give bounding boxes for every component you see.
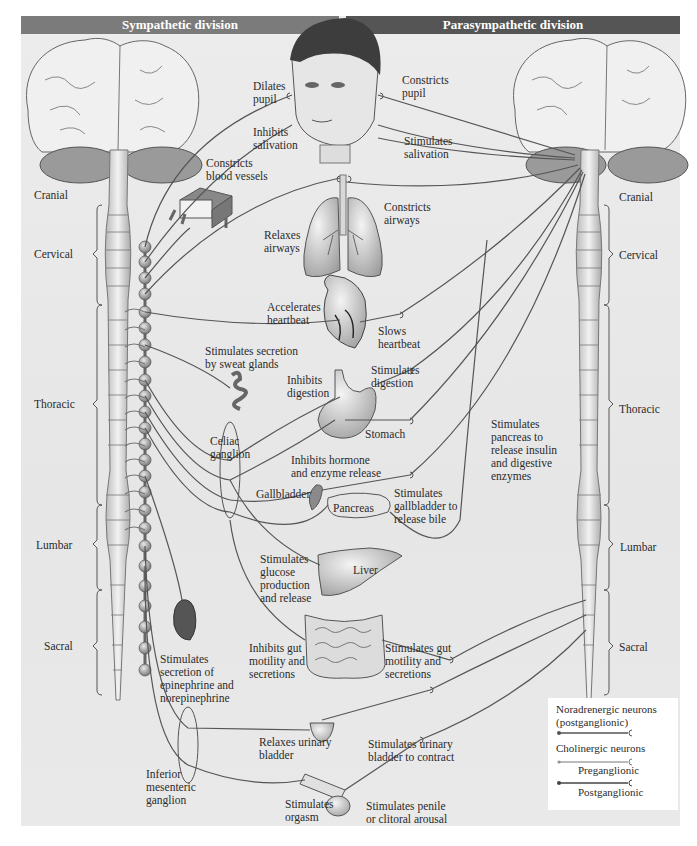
segment-label-left-cervical: Cervical <box>34 248 73 260</box>
legend-preganglionic: Preganglionic <box>578 764 639 777</box>
segment-label-right-sacral: Sacral <box>619 641 648 653</box>
segment-brackets-left <box>93 205 102 695</box>
legend-postganglionic: Postganglionic <box>578 786 643 799</box>
label-liver: Liver <box>353 564 378 577</box>
segment-label-right-lumbar: Lumbar <box>620 541 656 553</box>
intestines-icon <box>305 615 385 678</box>
gallbladder-icon <box>309 485 322 510</box>
label-gallbladder: Gallbladder <box>256 488 310 501</box>
legend-noradrenergic: Noradrenergic neurons (postganglionic) <box>556 703 657 728</box>
label-glucose-production: Stimulates glucose production and releas… <box>260 553 311 605</box>
label-stimulates-orgasm: Stimulates orgasm <box>285 798 334 824</box>
label-celiac-ganglion: Celiac ganglion <box>210 435 250 461</box>
label-bladder-contract: Stimulates urinary bladder to contract <box>368 738 454 764</box>
legend-noradrenergic-line-icon <box>556 729 636 737</box>
label-inferior-mesenteric-ganglion: Inferior mesenteric ganglion <box>146 768 196 807</box>
label-inhibits-hormone-release: Inhibits hormone and enzyme release <box>291 454 381 480</box>
label-constricts-pupil: Constricts pupil <box>402 74 449 100</box>
label-constricts-blood-vessels: Constricts blood vessels <box>206 157 268 183</box>
label-stimulates-salivation: Stimulates salivation <box>404 135 453 161</box>
segment-label-left-thoracic: Thoracic <box>34 398 75 410</box>
segment-label-left-lumbar: Lumbar <box>36 539 72 551</box>
segment-label-right-cervical: Cervical <box>619 249 658 261</box>
spinal-cord-left <box>105 150 131 700</box>
label-pancreas: Pancreas <box>333 502 374 515</box>
label-dilates-pupil: Dilates pupil <box>253 80 286 106</box>
label-stimulates-gut-motility: Stimulates gut motility and secretions <box>385 642 451 681</box>
label-inhibits-gut-motility: Inhibits gut motility and secretions <box>249 642 305 681</box>
label-penile-clitoral-arousal: Stimulates penile or clitoral arousal <box>366 800 447 826</box>
sympathetic-ganglion-chain <box>125 241 151 676</box>
segment-brackets-right <box>604 205 613 695</box>
lungs-icon <box>304 175 383 277</box>
label-gallbladder-bile: Stimulates gallbladder to release bile <box>394 487 458 526</box>
adrenal-kidney-icon <box>174 600 196 640</box>
face-icon <box>290 18 381 163</box>
brain-right-icon <box>514 38 688 183</box>
segment-label-left-sacral: Sacral <box>44 640 73 652</box>
label-constricts-airways: Constricts airways <box>384 201 431 227</box>
legend: Noradrenergic neurons (postganglionic) C… <box>548 698 678 810</box>
legend-cholinergic: Cholinergic neurons <box>556 742 645 755</box>
label-accelerates-heartbeat: Accelerates heartbeat <box>267 301 321 327</box>
label-sweat-glands: Stimulates secretion by sweat glands <box>205 345 298 371</box>
label-pancreas-insulin: Stimulates pancreas to release insulin a… <box>491 418 557 483</box>
segment-label-right-thoracic: Thoracic <box>619 403 660 415</box>
label-inhibits-salivation: Inhibits salivation <box>253 126 298 152</box>
segment-label-right-cranial: Cranial <box>619 191 653 203</box>
label-slows-heartbeat: Slows heartbeat <box>378 325 420 351</box>
label-stomach: Stomach <box>365 428 405 441</box>
label-relaxes-bladder: Relaxes urinary bladder <box>259 736 332 762</box>
label-inhibits-digestion: Inhibits digestion <box>287 374 329 400</box>
heart-icon <box>324 275 366 348</box>
label-stimulates-epinephrine: Stimulates secretion of epinephrine and … <box>160 653 234 705</box>
label-relaxes-airways: Relaxes airways <box>264 229 300 255</box>
label-stimulates-digestion: Stimulates digestion <box>371 364 420 390</box>
segment-label-left-cranial: Cranial <box>34 189 68 201</box>
sweat-gland-icon <box>232 373 246 409</box>
